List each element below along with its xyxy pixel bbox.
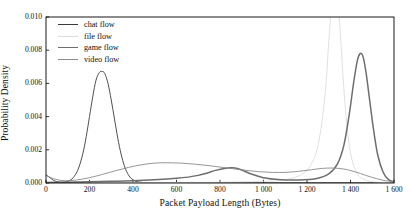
- legend-item-label: file flow: [84, 31, 112, 43]
- legend-item-file-flow[interactable]: file flow: [58, 31, 142, 43]
- legend-item-label: chat flow: [84, 19, 115, 31]
- chart-legend: chat flowfile flowgame flowvideo flow: [58, 19, 142, 65]
- legend-item-game-flow[interactable]: game flow: [58, 42, 142, 54]
- legend-line-swatch-icon: [58, 47, 78, 48]
- legend-item-video-flow[interactable]: video flow: [58, 54, 142, 66]
- chart-figure: Probability Density Packet Payload Lengt…: [0, 0, 412, 217]
- legend-item-chat-flow[interactable]: chat flow: [58, 19, 142, 31]
- legend-line-swatch-icon: [58, 24, 78, 25]
- legend-item-label: video flow: [84, 54, 119, 66]
- legend-line-swatch-icon: [58, 59, 78, 60]
- legend-line-swatch-icon: [58, 36, 78, 37]
- legend-item-label: game flow: [84, 42, 119, 54]
